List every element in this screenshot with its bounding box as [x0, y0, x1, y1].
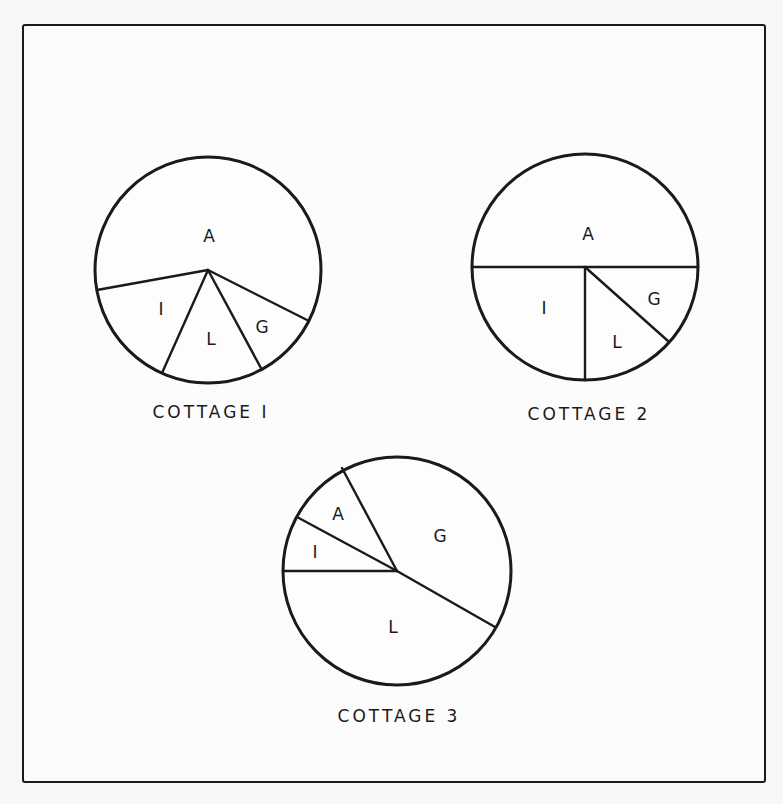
pie-chart-cottage-2: A I L G COTTAGE 2 — [472, 154, 698, 424]
slice-label-i: I — [312, 542, 317, 562]
chart-title-cottage-2: COTTAGE 2 — [528, 404, 651, 424]
slice-label-a: A — [332, 504, 344, 524]
slice-label-l: L — [388, 617, 398, 637]
slice-label-i: I — [158, 299, 163, 319]
chart-title-cottage-1: COTTAGE I — [152, 402, 269, 422]
slice-label-a: A — [582, 224, 594, 244]
pie-chart-cottage-3: A I L G COTTAGE 3 — [283, 457, 511, 726]
slice-label-g: G — [647, 289, 660, 309]
slice-label-i: I — [541, 298, 546, 318]
chart-title-cottage-3: COTTAGE 3 — [338, 706, 461, 726]
slice-label-g: G — [433, 526, 446, 546]
pie-chart-cottage-1: A I L G COTTAGE I — [95, 157, 321, 422]
slice-label-g: G — [255, 317, 268, 337]
slice-label-l: L — [206, 329, 216, 349]
slice-label-l: L — [612, 332, 622, 352]
slice-label-a: A — [203, 226, 215, 246]
pie-charts-figure: A I L G COTTAGE I A I L G COTTAGE 2 A I … — [0, 0, 783, 804]
